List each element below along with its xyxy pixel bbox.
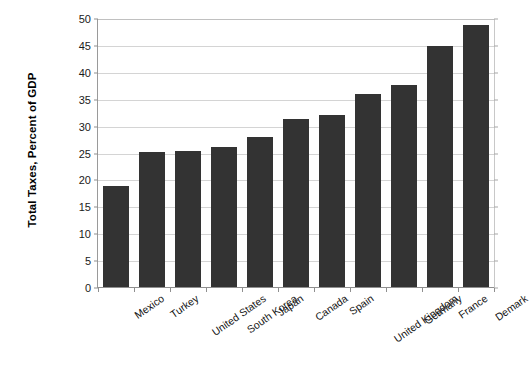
- y-axis-title: Total Taxes, Percent of GDP: [14, 0, 50, 300]
- y-tick-label-35: 35: [79, 94, 91, 106]
- x-axis-labels: MexicoTurkeyUnited StatesSouth KoreaJapa…: [97, 292, 495, 368]
- bar: [175, 151, 200, 288]
- bars-layer: [98, 19, 494, 288]
- bar: [139, 152, 164, 288]
- bar-slot: [314, 19, 350, 288]
- bar: [463, 25, 488, 288]
- bar-slot: [134, 19, 170, 288]
- bar: [211, 147, 236, 288]
- y-tick-mark-right-5: [494, 261, 498, 262]
- bar: [427, 46, 452, 288]
- plot-area: 05101520253035404550: [97, 19, 495, 288]
- x-axis-label: Mexico: [132, 292, 166, 321]
- y-tick-label-40: 40: [79, 67, 91, 79]
- bar-slot: [206, 19, 242, 288]
- y-tick-mark-right-10: [494, 234, 498, 235]
- bar: [319, 115, 344, 288]
- y-tick-label-0: 0: [85, 282, 91, 294]
- y-tick-label-25: 25: [79, 148, 91, 160]
- y-tick-label-20: 20: [79, 174, 91, 186]
- y-tick-mark-right-20: [494, 180, 498, 181]
- y-tick-label-10: 10: [79, 228, 91, 240]
- y-tick-label-45: 45: [79, 40, 91, 52]
- y-tick-mark-right-40: [494, 72, 498, 73]
- bar-slot: [422, 19, 458, 288]
- bar-slot: [458, 19, 494, 288]
- x-axis-label: Canada: [312, 292, 349, 323]
- bar-slot: [278, 19, 314, 288]
- x-axis-label: Turkey: [168, 292, 201, 320]
- bar-slot: [242, 19, 278, 288]
- bar-slot: [170, 19, 206, 288]
- y-tick-mark-right-25: [494, 153, 498, 154]
- bar-slot: [350, 19, 386, 288]
- x-axis-label: Spain: [347, 292, 376, 317]
- x-axis-label: Demark: [492, 292, 529, 323]
- y-tick-label-15: 15: [79, 201, 91, 213]
- y-tick-label-5: 5: [85, 255, 91, 267]
- y-tick-mark-right-35: [494, 99, 498, 100]
- bar: [391, 85, 416, 288]
- bar-slot: [386, 19, 422, 288]
- bar: [247, 137, 272, 288]
- y-tick-mark-right-15: [494, 207, 498, 208]
- y-tick-mark-right-30: [494, 126, 498, 127]
- y-tick-mark-right-50: [494, 19, 498, 20]
- bar: [355, 94, 380, 288]
- y-tick-mark-right-45: [494, 45, 498, 46]
- bar: [283, 119, 308, 288]
- bar: [103, 186, 128, 288]
- bar-slot: [98, 19, 134, 288]
- y-tick-label-30: 30: [79, 121, 91, 133]
- x-axis-baseline: [98, 287, 494, 288]
- y-tick-label-50: 50: [79, 13, 91, 25]
